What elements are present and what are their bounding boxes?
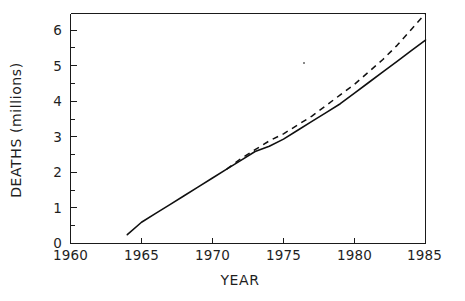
y-tick-label-6: 6 <box>53 22 62 38</box>
y-tick-label-1: 1 <box>53 200 62 216</box>
scan-artifact-speck <box>303 62 305 64</box>
y-axis-tick-labels: 0 1 2 3 4 5 6 <box>53 22 62 251</box>
chart-figure: 0 1 2 3 4 5 6 1960 1965 1970 1975 1980 1… <box>0 0 465 301</box>
plot-frame <box>71 14 426 244</box>
y-tick-label-5: 5 <box>53 58 62 74</box>
y-tick-label-4: 4 <box>53 93 62 109</box>
y-tick-label-3: 3 <box>53 129 62 145</box>
x-tick-label-1975: 1975 <box>266 247 301 263</box>
x-tick-label-1970: 1970 <box>195 247 230 263</box>
line-chart-canvas: 0 1 2 3 4 5 6 1960 1965 1970 1975 1980 1… <box>0 0 465 301</box>
series-projected-dashed <box>227 14 426 170</box>
x-tick-label-1980: 1980 <box>337 247 372 263</box>
y-tick-label-2: 2 <box>53 164 62 180</box>
y-axis-major-ticks <box>71 30 77 243</box>
x-axis-major-ticks <box>71 238 426 244</box>
x-tick-label-1960: 1960 <box>53 247 88 263</box>
y-axis-title: DEATHS (millions) <box>8 62 24 198</box>
x-tick-label-1965: 1965 <box>124 247 159 263</box>
x-axis-tick-labels: 1960 1965 1970 1975 1980 1985 <box>53 247 442 263</box>
x-axis-title: YEAR <box>219 272 259 288</box>
x-tick-label-1985: 1985 <box>407 247 442 263</box>
